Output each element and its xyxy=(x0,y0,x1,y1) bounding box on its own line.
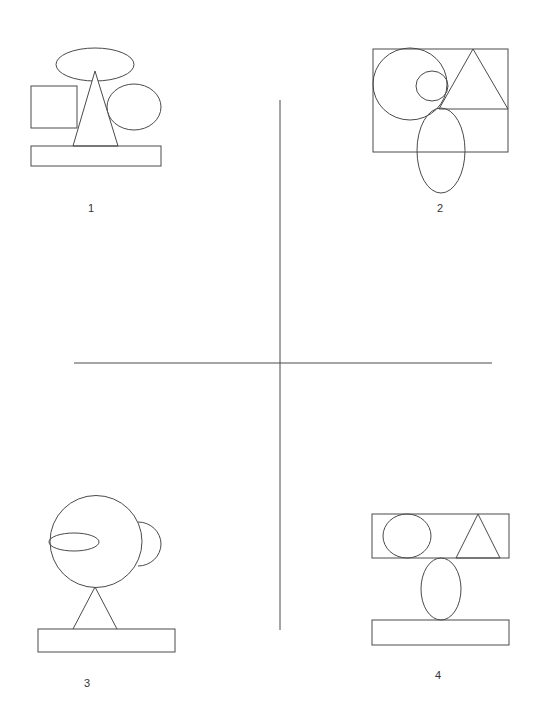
figure-2-tall-ellipse xyxy=(417,108,465,193)
figure-1-square xyxy=(31,86,77,128)
figure-2-label: 2 xyxy=(437,202,443,214)
figure-3-label: 3 xyxy=(84,677,90,689)
figure-1-circle xyxy=(107,84,161,130)
figure-1-triangle xyxy=(73,71,118,146)
figure-2: 2 xyxy=(373,48,508,214)
figure-4: 4 xyxy=(372,514,509,681)
figure-1-label: 1 xyxy=(88,202,94,214)
figure-1-base-rectangle xyxy=(31,146,161,166)
figure-3-ellipse xyxy=(49,533,99,551)
figure-4-label: 4 xyxy=(435,669,441,681)
figure-4-circle xyxy=(383,514,431,558)
figure-3-base-rectangle xyxy=(38,629,175,652)
figure-4-bottom-rectangle xyxy=(372,620,509,645)
figure-3-triangle xyxy=(73,587,117,629)
figure-4-ellipse xyxy=(421,558,461,620)
figure-3-large-circle xyxy=(50,496,142,588)
figure-3: 3 xyxy=(38,496,175,690)
figure-2-triangle xyxy=(439,49,508,109)
figure-2-frame-rectangle xyxy=(373,49,508,152)
figure-4-triangle xyxy=(456,514,500,558)
figure-1: 1 xyxy=(31,48,161,214)
figure-2-small-circle xyxy=(416,71,448,101)
diagram-canvas: 1 2 3 4 xyxy=(0,0,537,712)
